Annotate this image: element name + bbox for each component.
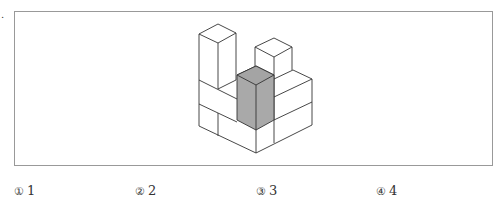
option-2-mark: ② <box>135 185 145 198</box>
option-1-mark: ① <box>14 185 24 198</box>
option-4[interactable]: ④4 <box>376 183 397 198</box>
option-3-mark: ③ <box>256 185 266 198</box>
option-3[interactable]: ③3 <box>256 183 277 198</box>
option-1[interactable]: ①1 <box>14 183 35 198</box>
cube-figure <box>0 0 497 200</box>
option-4-mark: ④ <box>376 185 386 198</box>
option-4-value: 4 <box>389 183 397 198</box>
option-2-value: 2 <box>148 183 156 198</box>
option-2[interactable]: ②2 <box>135 183 156 198</box>
option-3-value: 3 <box>269 183 277 198</box>
option-1-value: 1 <box>27 183 35 198</box>
